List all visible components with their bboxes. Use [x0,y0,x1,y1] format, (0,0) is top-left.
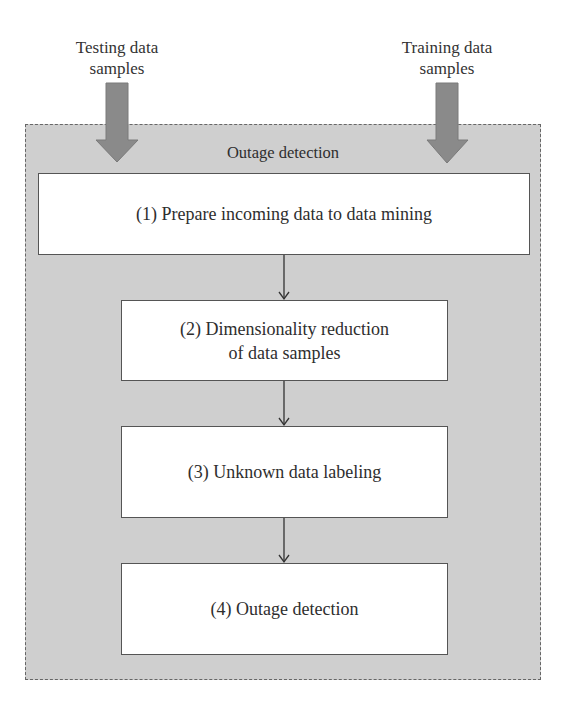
flow-arrow-1-2-icon [279,255,289,299]
flow-arrow-2-3-icon [279,381,289,425]
testing-input-arrow-icon [96,83,138,162]
flow-arrow-3-4-icon [279,518,289,562]
training-input-arrow-icon [427,83,468,163]
arrows-layer [0,0,566,703]
